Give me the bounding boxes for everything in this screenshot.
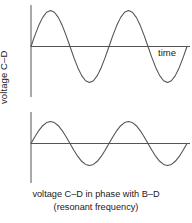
chart-voltage-c-d: voltage C–D time <box>0 0 192 104</box>
y-axis-label-voltage-c-d: voltage C–D <box>0 51 9 104</box>
chart-voltage-b-d: voltage B–D time <box>0 104 192 186</box>
figure-caption: voltage C–D in phase with B–D (resonant … <box>0 188 192 213</box>
waveform-figure: voltage C–D time voltage B–D time voltag… <box>0 0 192 223</box>
x-axis-label-time: time <box>158 47 176 58</box>
caption-line-1: voltage C–D in phase with B–D <box>0 188 192 201</box>
caption-line-2: (resonant frequency) <box>0 201 192 214</box>
chart-voltage-b-d-canvas <box>0 104 192 186</box>
